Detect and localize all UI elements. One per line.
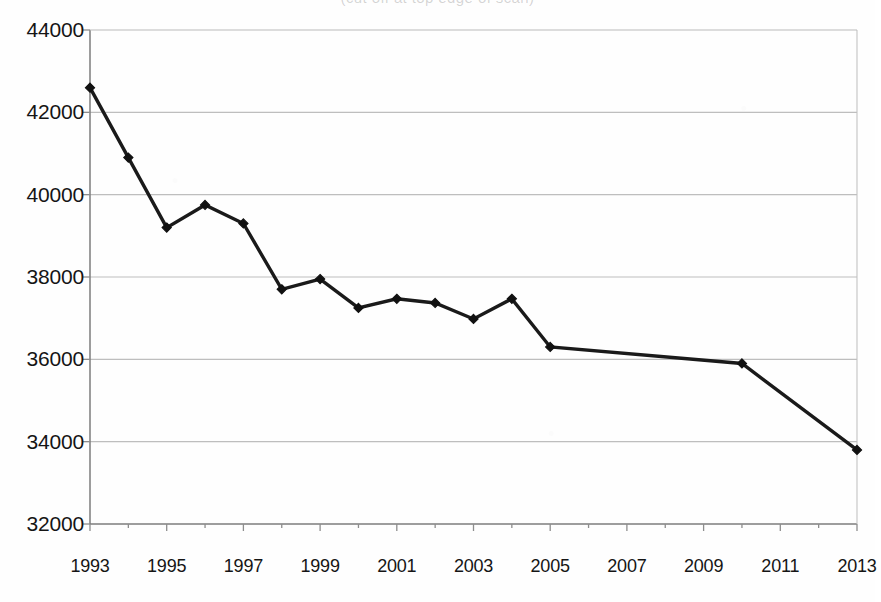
data-line — [90, 88, 857, 450]
gridlines — [90, 112, 857, 441]
x-axis-tick-marks — [90, 524, 857, 531]
x-axis-tick-label: 2013 — [827, 556, 881, 577]
x-axis-tick-label: 2009 — [674, 556, 734, 577]
x-axis-tick-label: 2011 — [750, 556, 810, 577]
y-axis-tick-label: 42000 — [0, 100, 84, 124]
y-axis-tick-marks — [83, 30, 90, 524]
x-axis-tick-label: 2007 — [597, 556, 657, 577]
x-axis-tick-label: 1999 — [290, 556, 350, 577]
y-axis-tick-label: 44000 — [0, 18, 84, 42]
x-axis-tick-label: 1993 — [60, 556, 120, 577]
x-axis-tick-label: 2005 — [520, 556, 580, 577]
x-axis-tick-label: 2003 — [444, 556, 504, 577]
y-axis-tick-label: 38000 — [0, 265, 84, 289]
y-axis-tick-label: 34000 — [0, 430, 84, 454]
x-axis-tick-label: 2001 — [367, 556, 427, 577]
y-axis-tick-label: 40000 — [0, 183, 84, 207]
x-axis-tick-label: 1997 — [213, 556, 273, 577]
y-axis-tick-label: 36000 — [0, 347, 84, 371]
y-axis-tick-label: 32000 — [0, 512, 84, 536]
x-axis-tick-label: 1995 — [137, 556, 197, 577]
data-point-markers — [85, 83, 861, 454]
